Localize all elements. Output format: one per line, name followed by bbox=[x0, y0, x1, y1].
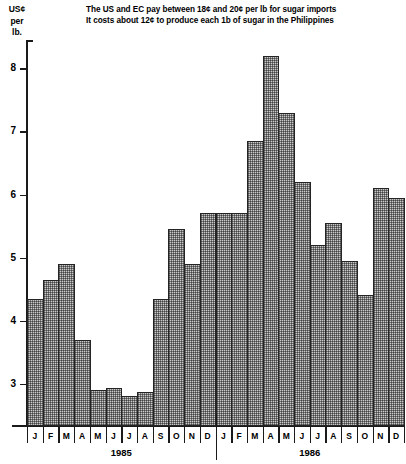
x-tick bbox=[404, 426, 405, 443]
y-axis-caption-line-3: lb. bbox=[2, 27, 32, 39]
bar bbox=[373, 188, 390, 426]
x-tick-label: A bbox=[74, 428, 90, 444]
bar bbox=[43, 280, 60, 426]
bar bbox=[216, 213, 233, 426]
bar bbox=[357, 295, 374, 426]
chart-subtitle: It costs about 12¢ to produce each 1b of… bbox=[86, 15, 402, 26]
y-axis-caption-line-2: per bbox=[2, 16, 32, 28]
y-tick-label-5: 5 bbox=[0, 254, 16, 262]
bar bbox=[263, 56, 280, 426]
bar bbox=[168, 229, 185, 426]
x-tick-label: S bbox=[341, 428, 357, 444]
y-tick-label-8: 8 bbox=[0, 64, 16, 72]
year-label-1986: 1986 bbox=[280, 447, 340, 459]
bar bbox=[58, 264, 75, 426]
bar bbox=[278, 113, 295, 426]
x-tick-label: M bbox=[278, 428, 294, 444]
bar bbox=[231, 213, 248, 426]
x-tick-label: D bbox=[200, 428, 216, 444]
x-tick-label: M bbox=[90, 428, 106, 444]
y-tick-label-4: 4 bbox=[0, 317, 16, 325]
y-axis-caption-line-1: US¢ bbox=[2, 4, 32, 16]
bar bbox=[325, 223, 342, 426]
x-tick-label: S bbox=[153, 428, 169, 444]
x-tick-label: D bbox=[388, 428, 404, 444]
y-tick-label-6: 6 bbox=[0, 191, 16, 199]
x-tick-label: J bbox=[294, 428, 310, 444]
x-tick-label: A bbox=[137, 428, 153, 444]
bar bbox=[310, 245, 327, 426]
x-axis: JFMAMJJASONDJFMAMJJASOND19851986 bbox=[26, 426, 404, 464]
y-tick-3 bbox=[20, 384, 27, 386]
bar bbox=[137, 392, 154, 426]
bar bbox=[27, 299, 44, 426]
plot-area: 345678 bbox=[26, 40, 404, 426]
bar bbox=[153, 299, 170, 426]
bar bbox=[184, 264, 201, 426]
bar bbox=[388, 198, 405, 426]
x-tick-label: J bbox=[121, 428, 137, 444]
x-tick-label: M bbox=[247, 428, 263, 444]
y-tick-5 bbox=[20, 258, 27, 260]
y-axis-caption: US¢ per lb. bbox=[2, 4, 32, 39]
year-divider bbox=[216, 414, 218, 460]
x-tick-label: J bbox=[310, 428, 326, 444]
x-tick-label: J bbox=[106, 428, 122, 444]
x-tick-label: F bbox=[231, 428, 247, 444]
bar bbox=[294, 182, 311, 426]
x-tick-label: O bbox=[168, 428, 184, 444]
x-tick-label: J bbox=[27, 428, 43, 444]
y-tick-label-3: 3 bbox=[0, 380, 16, 388]
bar bbox=[106, 388, 123, 426]
bar bbox=[74, 340, 91, 426]
year-label-1985: 1985 bbox=[91, 447, 151, 459]
y-tick-4 bbox=[20, 321, 27, 323]
x-tick-label: N bbox=[184, 428, 200, 444]
x-tick-label: A bbox=[263, 428, 279, 444]
x-tick-label: O bbox=[357, 428, 373, 444]
x-tick-label: N bbox=[373, 428, 389, 444]
x-tick-label: J bbox=[216, 428, 232, 444]
y-tick-6 bbox=[20, 195, 27, 197]
x-tick-label: M bbox=[58, 428, 74, 444]
bar-series bbox=[27, 40, 404, 426]
chart-title-block: The US and EC pay between 18¢ and 20¢ pe… bbox=[86, 4, 402, 26]
x-tick-label: A bbox=[325, 428, 341, 444]
y-tick-8 bbox=[20, 68, 27, 70]
x-tick-label: F bbox=[43, 428, 59, 444]
bar bbox=[200, 213, 217, 426]
bar bbox=[90, 390, 107, 426]
sugar-price-bar-chart: US¢ per lb. The US and EC pay between 18… bbox=[0, 0, 406, 464]
bar bbox=[121, 396, 138, 426]
bar bbox=[341, 261, 358, 426]
y-tick-7 bbox=[20, 131, 27, 133]
bar bbox=[247, 141, 264, 426]
y-tick-label-7: 7 bbox=[0, 127, 16, 135]
chart-title: The US and EC pay between 18¢ and 20¢ pe… bbox=[86, 4, 402, 15]
